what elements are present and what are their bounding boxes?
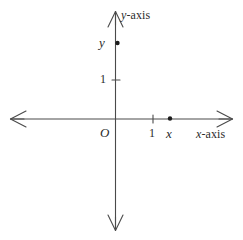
coordinate-plane-figure: y-axis x-axis y x 1 1 O (0, 0, 243, 240)
y-axis-bottom-arrowhead (108, 215, 123, 231)
x-axis-left-arrowhead (11, 111, 27, 127)
y-axis-label: y-axis (121, 9, 150, 21)
point-label-x: x (166, 127, 172, 140)
y-axis-label-suffix: -axis (126, 8, 150, 22)
x-axis-right-arrowhead (217, 111, 233, 127)
y-axis-tick-label-1: 1 (100, 73, 106, 85)
point-label-y: y (99, 36, 105, 49)
x-axis-label-suffix: -axis (201, 127, 225, 141)
x-axis-tick-label-1: 1 (149, 127, 155, 139)
point-marker-y (115, 41, 119, 45)
origin-label: O (100, 126, 109, 139)
point-marker-x (168, 116, 172, 120)
x-axis-label: x-axis (196, 128, 225, 140)
coordinate-axes-svg (0, 0, 243, 240)
